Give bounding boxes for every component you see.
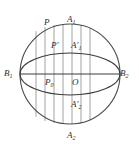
geometry-figure: P A1 P′ A′1 B1 B2 P0 O A′2 A2 <box>0 0 139 148</box>
label-A1-prime: A′1 <box>71 41 81 50</box>
prime-mark: ′ <box>57 40 59 50</box>
label-B2: B2 <box>120 69 129 78</box>
subscript: 2 <box>126 73 129 79</box>
subscript: 2 <box>73 135 76 141</box>
label-A2-prime: A′2 <box>71 100 81 109</box>
label-P0: P0 <box>45 78 54 87</box>
label-A2: A2 <box>67 131 76 140</box>
label-P: P <box>44 18 50 27</box>
subscript: 0 <box>51 82 54 88</box>
subscript: 1 <box>73 19 76 25</box>
label-P-prime: P′ <box>51 41 58 50</box>
subscript: 1 <box>10 73 13 79</box>
label-O: O <box>72 78 79 87</box>
label-B1: B1 <box>4 69 13 78</box>
label-A1: A1 <box>67 15 76 24</box>
